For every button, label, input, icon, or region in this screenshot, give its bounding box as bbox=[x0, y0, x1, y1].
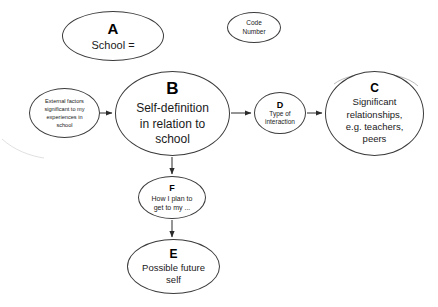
node-c-label: Significantrelationships,e.g. teachers,p… bbox=[346, 96, 404, 145]
node-external-factors[interactable]: External factorssignificant to myexperie… bbox=[29, 88, 100, 138]
node-b[interactable]: B Self-definitionin relation toschool bbox=[115, 71, 230, 156]
node-a-tag: A bbox=[108, 20, 119, 38]
node-code-number-label: CodeNumber bbox=[242, 19, 265, 35]
node-a-label: School = bbox=[91, 39, 134, 52]
node-e[interactable]: E Possible futureself bbox=[127, 239, 220, 294]
node-d-label: Type ofinteraction bbox=[265, 110, 295, 126]
node-c[interactable]: C Significantrelationships,e.g. teachers… bbox=[325, 71, 424, 156]
node-c-tag: C bbox=[370, 81, 379, 95]
node-f-label: How I plan toget to my ... bbox=[152, 194, 193, 212]
node-code-number[interactable]: CodeNumber bbox=[227, 12, 281, 43]
diagram-canvas: A School = CodeNumber External factorssi… bbox=[0, 0, 438, 307]
node-e-tag: E bbox=[169, 247, 177, 261]
node-external-factors-label: External factorssignificant to myexperie… bbox=[38, 97, 90, 129]
node-f-tag: F bbox=[169, 183, 175, 194]
stray-mark-left bbox=[2, 139, 44, 158]
node-b-label: Self-definitionin relation toschool bbox=[136, 101, 209, 148]
node-b-tag: B bbox=[166, 79, 178, 99]
node-d[interactable]: D Type ofinteraction bbox=[254, 92, 306, 134]
node-e-label: Possible futureself bbox=[142, 262, 205, 287]
node-f[interactable]: F How I plan toget to my ... bbox=[138, 176, 206, 219]
node-a[interactable]: A School = bbox=[62, 11, 164, 61]
node-d-tag: D bbox=[277, 100, 284, 111]
